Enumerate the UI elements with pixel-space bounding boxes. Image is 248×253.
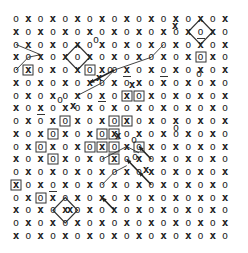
cross-token: x bbox=[10, 153, 22, 165]
cross-token: x bbox=[195, 192, 207, 204]
circle-token: o bbox=[195, 179, 207, 191]
circle-token: o bbox=[158, 64, 170, 76]
displaced-circle-token: o bbox=[129, 151, 141, 163]
cross-token: x bbox=[170, 90, 182, 102]
circle-token: o bbox=[121, 26, 133, 38]
circle-token: o bbox=[59, 166, 71, 178]
circle-token: o bbox=[72, 51, 84, 63]
cross-token: x bbox=[84, 128, 96, 140]
cross-token: x bbox=[22, 115, 34, 127]
boxed-cell-marker bbox=[47, 154, 58, 165]
circle-token: o bbox=[35, 166, 47, 178]
circle-token: o bbox=[96, 153, 108, 165]
cross-token: x bbox=[121, 217, 133, 229]
cross-token: x bbox=[207, 51, 219, 63]
cross-token: x bbox=[59, 128, 71, 140]
circle-token: o bbox=[10, 166, 22, 178]
circle-token: o bbox=[22, 77, 34, 89]
cross-token: x bbox=[35, 51, 47, 63]
cross-token: x bbox=[170, 64, 182, 76]
circle-token: o bbox=[170, 179, 182, 191]
cross-token: x bbox=[133, 204, 145, 216]
circle-token: o bbox=[47, 51, 59, 63]
circle-token: o bbox=[10, 13, 22, 25]
cross-token: x bbox=[145, 39, 157, 51]
cross-token: x bbox=[158, 179, 170, 191]
cross-token: x bbox=[96, 90, 108, 102]
cross-token: x bbox=[22, 192, 34, 204]
cross-token: x bbox=[219, 64, 231, 76]
symbol-grid-diagram: oxoxoxoxoxoxoxoxoxxoxoxoxoxoxoxoxoxooxox… bbox=[0, 0, 248, 253]
circle-token: o bbox=[133, 115, 145, 127]
circle-token: o bbox=[22, 179, 34, 191]
cross-token: x bbox=[195, 115, 207, 127]
circle-token: o bbox=[133, 64, 145, 76]
overline-marker bbox=[49, 191, 57, 192]
circle-token: o bbox=[22, 230, 34, 242]
cross-token: x bbox=[84, 102, 96, 114]
circle-token: o bbox=[195, 128, 207, 140]
cross-token: x bbox=[84, 153, 96, 165]
circle-token: o bbox=[108, 166, 120, 178]
cross-token: x bbox=[10, 26, 22, 38]
circle-token: o bbox=[195, 204, 207, 216]
circle-token: o bbox=[10, 90, 22, 102]
boxed-cell-marker bbox=[109, 116, 120, 127]
cross-token: x bbox=[72, 217, 84, 229]
displaced-cross-token: x bbox=[67, 100, 79, 112]
circle-token: o bbox=[10, 217, 22, 229]
cross-token: x bbox=[47, 39, 59, 51]
circle-token: o bbox=[47, 26, 59, 38]
cross-token: x bbox=[121, 166, 133, 178]
boxed-cell-marker bbox=[47, 128, 58, 139]
cross-token: x bbox=[207, 179, 219, 191]
boxed-cell-marker bbox=[109, 154, 120, 165]
cross-token: x bbox=[158, 230, 170, 242]
cross-token: x bbox=[182, 26, 194, 38]
circle-token: o bbox=[133, 13, 145, 25]
cross-token: x bbox=[22, 141, 34, 153]
cross-token: x bbox=[96, 166, 108, 178]
circle-token: o bbox=[207, 90, 219, 102]
circle-token: o bbox=[195, 230, 207, 242]
cross-token: x bbox=[121, 13, 133, 25]
cross-token: x bbox=[207, 102, 219, 114]
cross-token: x bbox=[96, 115, 108, 127]
circle-token: o bbox=[84, 115, 96, 127]
circle-token: o bbox=[207, 64, 219, 76]
cross-token: x bbox=[158, 77, 170, 89]
circle-token: o bbox=[145, 51, 157, 63]
circle-token: o bbox=[145, 77, 157, 89]
circle-token: o bbox=[207, 192, 219, 204]
circle-token: o bbox=[59, 64, 71, 76]
cross-token: x bbox=[22, 13, 34, 25]
displaced-circle-token: o bbox=[193, 68, 205, 80]
cross-token: x bbox=[219, 115, 231, 127]
circle-token: o bbox=[96, 51, 108, 63]
cross-token: x bbox=[47, 64, 59, 76]
circle-token: o bbox=[35, 39, 47, 51]
cross-token: x bbox=[84, 204, 96, 216]
overline-marker bbox=[123, 76, 131, 77]
cross-token: x bbox=[10, 51, 22, 63]
cross-token: x bbox=[158, 128, 170, 140]
circle-token: o bbox=[10, 115, 22, 127]
circle-token: o bbox=[219, 179, 231, 191]
circle-token: o bbox=[47, 179, 59, 191]
circle-token: o bbox=[108, 13, 120, 25]
circle-token: o bbox=[59, 141, 71, 153]
circle-token: o bbox=[158, 13, 170, 25]
cross-token: x bbox=[145, 141, 157, 153]
boxed-cell-marker bbox=[97, 128, 108, 139]
circle-token: o bbox=[170, 230, 182, 242]
circle-token: o bbox=[182, 90, 194, 102]
circle-token: o bbox=[59, 192, 71, 204]
cross-token: x bbox=[195, 39, 207, 51]
circle-token: o bbox=[133, 217, 145, 229]
overline-marker bbox=[98, 101, 106, 102]
cross-token: x bbox=[72, 64, 84, 76]
circle-token: o bbox=[72, 153, 84, 165]
cross-token: x bbox=[158, 153, 170, 165]
cross-token: x bbox=[96, 192, 108, 204]
circle-token: o bbox=[10, 192, 22, 204]
